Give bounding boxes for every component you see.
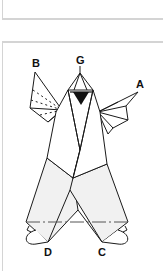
right-wing [98,92,138,134]
label-g: G [76,54,85,66]
label-a: A [136,78,144,90]
fold-arrow-icon [73,92,89,105]
right-foot-tab [123,226,127,232]
head [68,66,93,90]
label-b: B [32,57,40,69]
label-d: D [44,246,52,258]
label-c: C [98,246,106,258]
left-foot-tab [27,226,31,232]
